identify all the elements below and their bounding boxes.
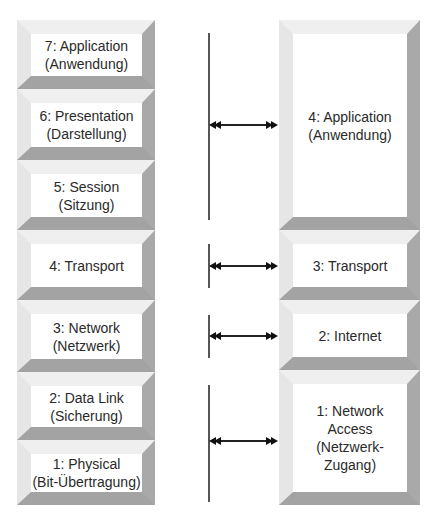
tcpip-layer-4-label: 4: Application	[308, 108, 391, 126]
tcpip-layer-1-label: 1: Network Access	[293, 402, 407, 438]
tcpip-layer-3-label: 3: Transport	[313, 257, 388, 275]
osi-layer-2-sub: (Sicherung)	[49, 407, 124, 425]
double-arrow-network-access	[209, 437, 278, 445]
osi-layer-3-label: 3: Network	[53, 319, 121, 337]
tcpip-layer-1: 1: Network Access(Netzwerk-Zugang)	[279, 370, 420, 505]
osi-layer-7: 7: Application(Anwendung)	[17, 20, 155, 89]
osi-layer-4-label: 4: Transport	[49, 257, 124, 275]
double-arrow-transport	[209, 262, 278, 270]
osi-layer-7-sub: (Anwendung)	[45, 55, 128, 73]
tcpip-layer-1-sub: (Netzwerk-	[293, 438, 407, 456]
osi-layer-1-sub: (Bit-Übertragung)	[32, 473, 140, 491]
tcpip-layer-3: 3: Transport	[279, 230, 420, 300]
osi-layer-5: 5: Session(Sitzung)	[17, 160, 155, 230]
osi-layer-7-label: 7: Application	[45, 37, 128, 55]
osi-layer-3-sub: (Netzwerk)	[53, 337, 121, 355]
osi-layer-6-sub: (Darstellung)	[39, 125, 133, 143]
osi-layer-6: 6: Presentation(Darstellung)	[17, 89, 155, 160]
osi-layer-5-sub: (Sitzung)	[54, 196, 119, 214]
tcpip-layer-4-sub: (Anwendung)	[308, 126, 391, 144]
osi-layer-1: 1: Physical(Bit-Übertragung)	[17, 440, 155, 505]
double-arrow-internet	[209, 332, 278, 340]
tcpip-layer-4: 4: Application(Anwendung)	[279, 20, 420, 230]
tcpip-layer-2: 2: Internet	[279, 300, 420, 370]
osi-layer-5-label: 5: Session	[54, 178, 119, 196]
double-arrow-application	[209, 121, 278, 129]
osi-layer-6-label: 6: Presentation	[39, 107, 133, 125]
osi-layer-2: 2: Data Link(Sicherung)	[17, 372, 155, 440]
osi-layer-1-label: 1: Physical	[32, 455, 140, 473]
osi-layer-2-label: 2: Data Link	[49, 389, 124, 407]
osi-layer-3: 3: Network(Netzwerk)	[17, 300, 155, 372]
osi-layer-4: 4: Transport	[17, 230, 155, 300]
tcpip-layer-1-sub2: Zugang)	[293, 456, 407, 474]
tcpip-layer-2-label: 2: Internet	[318, 327, 381, 345]
